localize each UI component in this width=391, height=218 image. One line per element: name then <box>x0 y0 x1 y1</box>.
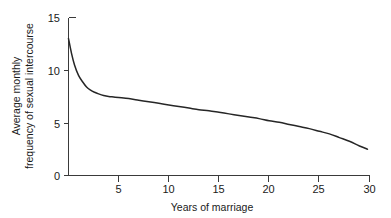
y-tick-label-15: 15 <box>48 12 60 24</box>
x-axis-tick-labels: 5 10 15 20 25 30 <box>115 183 375 195</box>
x-tick-label-25: 25 <box>312 183 324 195</box>
line-chart-plot: 15 10 5 0 5 10 15 20 25 30 Years of marr… <box>0 0 391 218</box>
data-series-line <box>69 39 368 150</box>
y-axis-title-line2: frequency of sexual intercourse <box>23 23 35 169</box>
x-axis-ticks <box>119 176 370 182</box>
y-tick-label-0: 0 <box>54 170 60 182</box>
x-axis-title: Years of marriage <box>171 201 254 213</box>
chart-figure: 15 10 5 0 5 10 15 20 25 30 Years of marr… <box>0 0 391 218</box>
y-axis-title-line1: Average monthly <box>10 56 22 135</box>
y-axis-tick-labels: 15 10 5 0 <box>48 12 60 182</box>
x-tick-label-15: 15 <box>212 183 224 195</box>
x-tick-label-5: 5 <box>115 183 121 195</box>
y-tick-label-10: 10 <box>48 65 60 77</box>
x-tick-label-10: 10 <box>162 183 174 195</box>
x-tick-label-20: 20 <box>262 183 274 195</box>
y-tick-label-5: 5 <box>54 118 60 130</box>
x-tick-label-30: 30 <box>363 183 375 195</box>
